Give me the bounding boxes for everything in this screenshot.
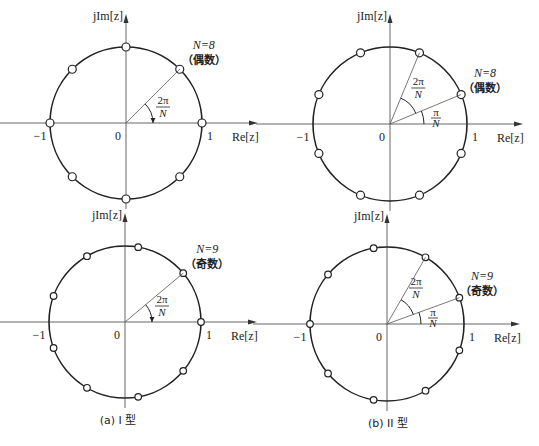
zero-marker xyxy=(84,253,91,260)
real-axis-arrow-icon xyxy=(514,122,523,127)
zero-marker xyxy=(457,149,465,157)
angle-denominator: N xyxy=(157,306,166,318)
zero-marker xyxy=(176,173,184,181)
zero-marker xyxy=(135,244,142,251)
offset-denominator: N xyxy=(431,117,440,129)
parity-label: （偶数） xyxy=(463,81,507,95)
radial-line xyxy=(126,69,180,123)
angle-numerator: 2π xyxy=(156,293,168,305)
real-axis-arrow-icon xyxy=(511,322,520,327)
zero-marker xyxy=(198,119,206,127)
zero-marker xyxy=(135,394,142,401)
neg-one-label: −1 xyxy=(297,130,310,144)
zero-marker xyxy=(46,119,54,127)
origin-label: 0 xyxy=(376,330,382,344)
offset-denominator: N xyxy=(428,317,437,329)
y-axis-label: jIm[z] xyxy=(356,9,387,23)
zero-marker xyxy=(456,347,463,354)
parity-label: （奇数） xyxy=(185,257,229,271)
angle-denominator: N xyxy=(411,288,420,300)
zero-marker xyxy=(50,293,57,300)
origin-label: 0 xyxy=(114,328,120,342)
n-label: N=8 xyxy=(192,38,215,52)
panel-a-odd: jIm[z]Re[z]0−112πNN=9（奇数） xyxy=(0,208,258,408)
zero-marker xyxy=(357,49,365,57)
zero-marker xyxy=(84,385,91,392)
zero-marker xyxy=(122,195,130,203)
neg-one-label: −1 xyxy=(34,129,47,143)
zero-marker xyxy=(415,191,423,199)
x-axis-label: Re[z] xyxy=(497,131,524,145)
caption-type-2: (b) II 型 xyxy=(368,416,408,430)
zero-marker xyxy=(315,149,323,157)
zero-marker xyxy=(370,245,377,252)
offset-arc xyxy=(421,111,424,124)
angle-arc xyxy=(401,98,416,113)
radial-line xyxy=(387,298,459,324)
parity-label: （偶数） xyxy=(182,53,226,67)
pos-one-label: 1 xyxy=(206,328,212,342)
x-axis-label: Re[z] xyxy=(231,329,258,343)
zero-marker xyxy=(357,191,365,199)
neg-one-label: −1 xyxy=(33,328,46,342)
offset-arc xyxy=(419,312,421,324)
zero-marker xyxy=(180,368,187,375)
zero-marker xyxy=(422,387,429,394)
zero-marker xyxy=(370,397,377,404)
z-plane-figure: jIm[z]Re[z]0−112πNN=8（偶数）jIm[z]Re[z]0−11… xyxy=(0,0,539,446)
zero-marker xyxy=(122,43,130,51)
imag-axis-arrow-icon xyxy=(388,14,393,23)
panel-b-odd: jIm[z]Re[z]0−112πNπNN=9（奇数） xyxy=(253,209,521,411)
panel-b-even: jIm[z]Re[z]0−112πNπNN=8（偶数） xyxy=(256,9,524,211)
zero-marker xyxy=(50,345,57,352)
angle-numerator: 2π xyxy=(410,275,422,287)
zero-marker xyxy=(325,370,332,377)
zero-marker xyxy=(198,319,205,326)
y-axis-label: jIm[z] xyxy=(92,9,123,23)
y-axis-label: jIm[z] xyxy=(91,208,122,222)
pos-one-label: 1 xyxy=(207,129,213,143)
angle-denominator: N xyxy=(414,88,423,100)
caption-type-1: (a) I 型 xyxy=(100,413,137,427)
origin-label: 0 xyxy=(379,130,385,144)
angle-arc xyxy=(401,300,413,315)
imag-axis-arrow-icon xyxy=(385,214,390,223)
x-axis-label: Re[z] xyxy=(232,130,259,144)
real-axis-arrow-icon xyxy=(249,121,258,126)
angle-arrow-icon xyxy=(151,118,156,123)
n-label: N=9 xyxy=(195,242,218,256)
zero-marker xyxy=(68,65,76,73)
n-label: N=8 xyxy=(473,66,496,80)
parity-label: （奇数） xyxy=(460,284,504,298)
zero-marker xyxy=(68,173,76,181)
imag-axis-arrow-icon xyxy=(124,14,129,23)
n-label: N=9 xyxy=(470,269,493,283)
angle-numerator: 2π xyxy=(157,94,169,106)
angle-arrow-icon xyxy=(150,317,155,322)
neg-one-label: −1 xyxy=(294,330,307,344)
pos-one-label: 1 xyxy=(472,130,478,144)
panel-a-even: jIm[z]Re[z]0−112πNN=8（偶数） xyxy=(0,9,259,209)
x-axis-label: Re[z] xyxy=(494,331,521,345)
zero-marker xyxy=(307,321,314,328)
radial-line xyxy=(125,273,183,322)
angle-denominator: N xyxy=(158,107,167,119)
zero-marker xyxy=(315,91,323,99)
imag-axis-arrow-icon xyxy=(123,213,128,222)
y-axis-label: jIm[z] xyxy=(353,209,384,223)
pos-one-label: 1 xyxy=(469,330,475,344)
angle-numerator: 2π xyxy=(413,75,425,87)
origin-label: 0 xyxy=(115,129,121,143)
zero-marker xyxy=(325,271,332,278)
